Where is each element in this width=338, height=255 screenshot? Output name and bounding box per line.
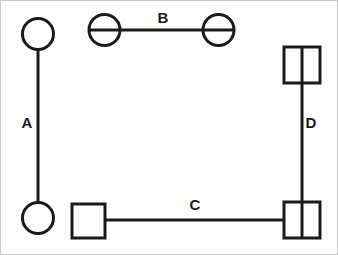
link-label-a: A — [22, 114, 33, 131]
joint-circle-bottom-left — [23, 203, 54, 234]
link-label-d: D — [306, 114, 317, 131]
joint-circle-top-left — [23, 19, 54, 50]
joint-square-bottom-left — [72, 204, 105, 238]
diagram-canvas: A B C D — [0, 0, 338, 255]
link-label-b: B — [158, 9, 169, 26]
diagram-svg: A B C D — [0, 0, 338, 255]
link-label-c: C — [190, 196, 201, 213]
